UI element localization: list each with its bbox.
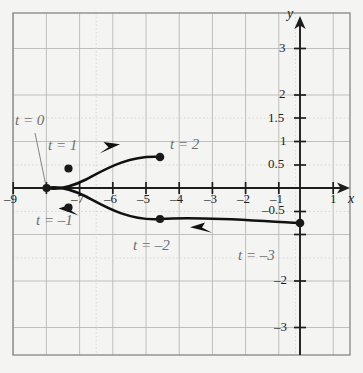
annotation-t-equals-minus-3: t = –3 [238, 248, 275, 263]
annotation-t-equals-1: t = 1 [48, 138, 77, 153]
x-tick-label--2: –2 [237, 192, 250, 205]
x-tick-label--4: –4 [170, 192, 183, 205]
point-tm3 [296, 219, 305, 228]
x-tick-label--3: –3 [204, 192, 217, 205]
y-tick-label-0p5: 0.5 [268, 157, 284, 170]
y-tick-label-1p5: 1.5 [268, 111, 284, 124]
point-t1 [64, 164, 72, 172]
annotation-t-equals-minus-1: t = –1 [36, 213, 73, 228]
y-tick-label--3: –3 [274, 320, 287, 333]
parametric-plot-canvas [0, 0, 363, 373]
point-tm2 [156, 215, 164, 223]
annotation-t-equals-2: t = 2 [170, 137, 199, 152]
y-tick-label-1: 1 [280, 134, 287, 147]
x-tick-label--5: –5 [137, 192, 150, 205]
y-tick-label--2: –2 [274, 273, 287, 286]
point-t2 [156, 153, 165, 162]
x-tick-label--7: –7 [71, 192, 84, 205]
x-tick-label--9: –9 [4, 192, 17, 205]
x-tick-label--6: –6 [104, 192, 117, 205]
x-axis-label: x [348, 192, 354, 206]
graph-figure: –9 –7 –6 –5 –4 –3 –2 –1 1 3 2 1.5 1 0.5 … [0, 0, 363, 373]
y-axis-label: y [287, 7, 293, 21]
x-tick-label-1: 1 [330, 192, 337, 205]
point-t0 [43, 184, 51, 192]
annotation-t-equals-minus-2: t = –2 [133, 238, 170, 253]
y-tick-label--0p5: –0.5 [262, 203, 285, 216]
annotation-t-equals-0: t = 0 [15, 113, 44, 128]
y-tick-label-3: 3 [279, 41, 286, 54]
y-tick-label-2: 2 [279, 87, 286, 100]
